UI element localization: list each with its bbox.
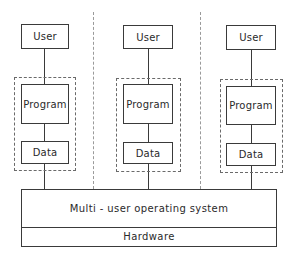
- os-hardware-divider: [22, 227, 276, 228]
- user-box-1: User: [21, 24, 69, 49]
- data-label: Data: [136, 148, 161, 159]
- user-label: User: [136, 32, 160, 43]
- data-box-1: Data: [21, 141, 69, 164]
- hardware-label: Hardware: [22, 231, 276, 242]
- data-box-2: Data: [123, 142, 173, 164]
- user-box-2: User: [123, 25, 173, 49]
- data-label: Data: [33, 147, 58, 158]
- program-box-3: Program: [226, 86, 276, 125]
- program-label: Program: [229, 100, 273, 111]
- os-hardware-block: Multi - user operating system Hardware: [21, 189, 277, 247]
- column-separator-2: [200, 12, 201, 189]
- program-label: Program: [126, 99, 170, 110]
- column-separator-1: [93, 12, 94, 189]
- user-box-3: User: [226, 25, 276, 50]
- os-label: Multi - user operating system: [22, 203, 276, 214]
- data-label: Data: [239, 149, 264, 160]
- program-box-2: Program: [123, 84, 173, 124]
- user-label: User: [33, 31, 57, 42]
- user-label: User: [239, 32, 263, 43]
- program-label: Program: [23, 99, 67, 110]
- data-box-3: Data: [226, 143, 276, 166]
- program-box-1: Program: [21, 84, 69, 124]
